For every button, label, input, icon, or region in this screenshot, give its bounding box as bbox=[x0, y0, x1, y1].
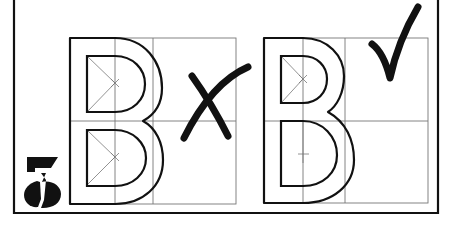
check-mark-icon bbox=[372, 7, 418, 78]
construction-guides bbox=[281, 56, 309, 163]
example-incorrect bbox=[70, 38, 248, 204]
cross-mark-icon bbox=[184, 67, 248, 138]
frame bbox=[14, 0, 438, 213]
step-number-icon bbox=[24, 157, 61, 208]
construction-guides bbox=[87, 56, 119, 185]
example-correct bbox=[264, 7, 428, 203]
letter-b-lower-counter bbox=[281, 121, 337, 186]
letter-construction-diagram bbox=[0, 0, 452, 227]
construction-grid bbox=[70, 38, 236, 204]
diagram-stage bbox=[0, 0, 452, 227]
